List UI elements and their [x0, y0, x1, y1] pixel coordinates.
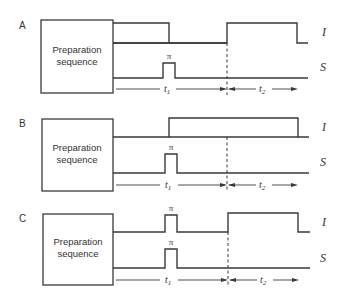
i-channel-b — [113, 118, 309, 137]
box-text-line2-c: sequence — [57, 248, 98, 259]
channel-s-label-a: S — [320, 60, 326, 74]
t2-label-a: t2 — [259, 83, 266, 96]
pi-label-s-a: π — [167, 51, 172, 61]
t2-arrowhead-b — [291, 183, 298, 187]
t2-label-b: t2 — [259, 179, 266, 192]
box-text-line2-a: sequence — [56, 56, 97, 67]
t1-label-b: t1 — [165, 179, 171, 192]
panel-a: A Preparation sequence I π S t1 t2 — [19, 20, 327, 96]
pulse-sequence-diagram: A Preparation sequence I π S t1 t2 B Pre… — [0, 0, 342, 299]
s-channel-a — [113, 63, 308, 78]
channel-i-label-c: I — [321, 215, 327, 229]
box-text-line1-c: Preparation — [53, 236, 102, 247]
t2-arrowhead-a — [291, 87, 298, 91]
s-channel-b — [113, 154, 309, 173]
t2-label-c: t2 — [260, 274, 267, 287]
panel-c: C Preparation sequence π I π S t1 t2 — [19, 203, 327, 287]
t1-arrowhead-c — [221, 278, 228, 282]
s-channel-c — [113, 249, 310, 268]
panel-label-c: C — [19, 213, 26, 224]
channel-s-label-c: S — [320, 251, 326, 265]
panel-label-a: A — [19, 20, 26, 31]
t2-arrowhead-c — [292, 278, 299, 282]
pi-label-i-c: π — [169, 203, 174, 213]
channel-s-label-b: S — [320, 155, 326, 169]
channel-i-label-a: I — [321, 25, 327, 39]
t1-label-a: t1 — [164, 83, 170, 96]
box-text-line1-a: Preparation — [52, 44, 101, 55]
t1-label-c: t1 — [165, 274, 171, 287]
i-channel-a — [113, 23, 308, 43]
box-text-line1-b: Preparation — [52, 142, 101, 153]
panel-b: B Preparation sequence I π S t1 t2 — [19, 118, 327, 192]
t1-arrowhead-b — [220, 183, 227, 187]
i-channel-c — [113, 213, 310, 232]
pi-label-s-c: π — [169, 237, 174, 247]
panel-label-b: B — [19, 118, 26, 129]
i-pulse-first-a — [113, 23, 169, 43]
t1-arrowhead-a — [220, 87, 227, 91]
box-text-line2-b: sequence — [56, 154, 97, 165]
pi-label-s-b: π — [169, 142, 174, 152]
channel-i-label-b: I — [321, 120, 327, 134]
